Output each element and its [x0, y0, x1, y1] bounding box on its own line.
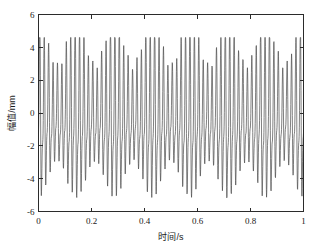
- figure-container: 00.20.40.60.81 6420-2-4-6 时间/s 幅值/mm: [0, 0, 320, 250]
- y-tick-label: -6: [27, 207, 35, 217]
- x-tick-label: 0.6: [192, 216, 204, 226]
- x-tick-label: 1: [301, 216, 306, 226]
- y-axis-title: 幅值/mm: [6, 95, 17, 131]
- x-tick-label: 0.8: [245, 216, 257, 226]
- y-tick-label: 6: [30, 10, 35, 20]
- y-tick-label: 2: [30, 75, 35, 85]
- chart-canvas: 00.20.40.60.81 6420-2-4-6 时间/s 幅值/mm: [0, 0, 320, 250]
- y-tick-label: 4: [30, 43, 35, 53]
- x-tick-label: 0: [36, 216, 41, 226]
- y-tick-label: -2: [27, 141, 35, 151]
- y-tick-label: 0: [30, 108, 35, 118]
- y-tick-label: -4: [27, 174, 35, 184]
- x-tick-label: 0.4: [139, 216, 151, 226]
- x-axis-title: 时间/s: [158, 231, 184, 242]
- x-tick-label: 0.2: [86, 216, 97, 226]
